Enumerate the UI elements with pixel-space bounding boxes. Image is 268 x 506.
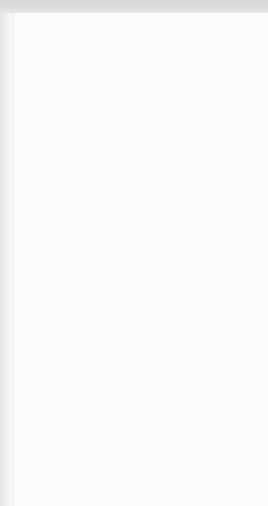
figure-caption	[22, 243, 268, 254]
figure-page	[0, 0, 268, 506]
scan-edge-top	[0, 0, 268, 13]
chart-panel-budget-line	[14, 13, 268, 249]
budget-line-chart-svg	[14, 13, 268, 249]
chart-panel-demand-curve	[14, 268, 268, 506]
demand-curve-chart-svg	[14, 268, 268, 506]
